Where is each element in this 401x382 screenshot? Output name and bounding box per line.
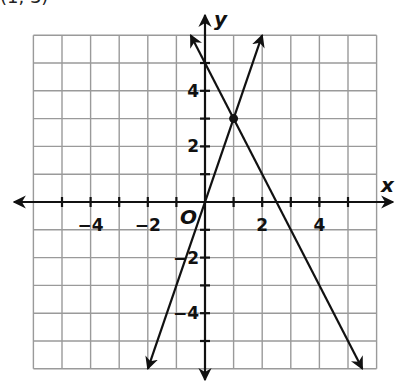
x-tick-label: 2 [256, 215, 268, 235]
axes [14, 15, 393, 380]
x-tick-label: −4 [78, 215, 104, 235]
y-tick-label: 2 [187, 136, 199, 156]
coordinate-plane: −4−22442−2−4Oxy [0, 0, 401, 382]
points [229, 114, 238, 123]
x-tick-label: 4 [313, 215, 325, 235]
y-tick-label: 4 [187, 81, 199, 101]
y-tick-label: −2 [173, 248, 199, 268]
x-tick-label: −2 [135, 215, 161, 235]
intersection-point [229, 114, 238, 123]
origin-label: O [180, 205, 197, 229]
y-tick-label: −4 [173, 303, 199, 323]
x-axis-label: x [380, 173, 395, 197]
y-axis-label: y [214, 7, 228, 31]
